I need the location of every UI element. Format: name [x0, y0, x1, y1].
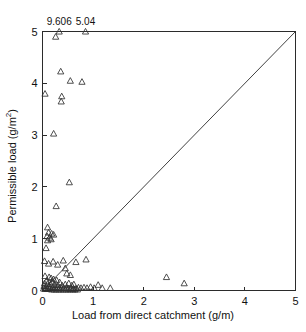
data-point-marker — [50, 258, 56, 264]
data-point-marker — [58, 68, 64, 74]
y-tick-label: 1 — [31, 233, 37, 245]
y-axis-label-wrapper: Permissible load (g/m2) — [0, 0, 22, 332]
y-tick-label: 0 — [31, 285, 37, 297]
x-axis-label: Load from direct catchment (g/m) — [0, 309, 306, 321]
data-point-marker — [107, 285, 113, 291]
y-tick-label: 5 — [31, 26, 37, 38]
data-point-marker — [67, 78, 73, 84]
data-point-marker — [79, 79, 85, 85]
data-point-marker — [73, 259, 79, 265]
data-point-marker — [59, 93, 65, 99]
data-point-marker — [66, 179, 72, 185]
data-point-marker — [60, 257, 66, 263]
y-tick-label: 2 — [31, 181, 37, 193]
x-tick-label: 0 — [39, 295, 45, 307]
y-tick-label: 4 — [31, 77, 37, 89]
x-tick-label: 4 — [242, 295, 248, 307]
y-axis-label: Permissible load (g/m2) — [4, 109, 18, 223]
x-tick-label: 3 — [191, 295, 197, 307]
data-point-marker — [62, 265, 68, 271]
data-point-marker — [83, 256, 89, 262]
x-tick-label: 2 — [141, 295, 147, 307]
x-tick-label: 5 — [292, 295, 298, 307]
point-annotation-label: 5.04 — [76, 16, 96, 27]
data-point-marker — [44, 224, 50, 230]
data-point-marker — [181, 280, 187, 286]
point-annotations: 9.6065.04 — [47, 16, 96, 27]
y-axis-label-superscript: 2 — [4, 113, 13, 117]
data-point-marker — [53, 203, 59, 209]
data-point-marker — [95, 282, 101, 288]
plot-canvas: 012345012345 9.6065.04 — [0, 0, 306, 332]
y-axis-label-base: Permissible load (g/m — [6, 117, 18, 223]
y-axis-label-close: ) — [6, 109, 18, 113]
data-points — [40, 28, 187, 292]
x-tick-label: 1 — [90, 295, 96, 307]
point-annotation-label: 9.606 — [47, 16, 72, 27]
tick-labels: 012345012345 — [31, 26, 298, 307]
scatter-plot-figure: 012345012345 9.6065.04 Load from direct … — [0, 0, 306, 332]
reference-line — [43, 32, 296, 291]
data-point-marker — [43, 245, 49, 251]
y-tick-label: 3 — [31, 129, 37, 141]
data-point-marker — [51, 130, 57, 136]
data-point-marker — [163, 274, 169, 280]
